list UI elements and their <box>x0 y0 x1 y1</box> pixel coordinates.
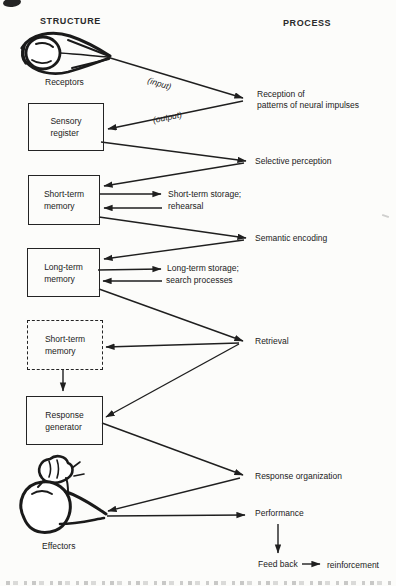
arrow-respgen-to-resporg <box>102 423 243 475</box>
arrow-sensory-to-selective <box>101 142 246 161</box>
arrow-stm-to-semantic <box>99 217 246 238</box>
response-generator-label-line1: Response <box>45 410 83 420</box>
arrow-ltm-to-retrieval <box>99 289 243 341</box>
scan-artifact-blob <box>3 0 22 8</box>
retrieval-label: Retrieval <box>255 336 289 348</box>
long-term-memory-label-line2: memory <box>44 274 75 284</box>
reinforcement-label: reinforcement <box>327 560 379 572</box>
sensory-register-box: Sensory register <box>28 103 104 151</box>
short-term-memory-dashed-label-line1: Short-term <box>45 334 85 344</box>
sensory-register-label-line2: register <box>50 128 78 138</box>
semantic-encoding-label: Semantic encoding <box>255 233 327 245</box>
long-term-memory-box: Long-term memory <box>27 248 100 297</box>
receptors-caption: Receptors <box>45 77 84 89</box>
long-term-storage-label: Long-term storage; <box>167 263 239 275</box>
selective-perception-label: Selective perception <box>255 156 332 168</box>
reception-label-line1: Reception of <box>257 89 305 101</box>
search-processes-label: search processes <box>166 275 233 287</box>
performance-label: Performance <box>255 508 304 520</box>
arrow-input <box>107 57 243 98</box>
response-generator-box: Response generator <box>26 396 103 445</box>
response-generator-label-line2: generator <box>45 422 81 432</box>
arrow-resporg-to-effectors <box>108 478 240 511</box>
reception-label-line2: patterns of neural impulses <box>257 100 359 112</box>
arrow-retrieval-to-stm2 <box>106 343 239 347</box>
receptors-eye-icon <box>22 33 110 73</box>
process-column-header: PROCESS <box>283 18 331 28</box>
arrow-semantic-to-ltm <box>104 240 244 259</box>
short-term-memory-box: Short-term memory <box>28 175 100 225</box>
structure-column-header: STRUCTURE <box>40 16 101 26</box>
long-term-memory-label-line1: Long-term <box>44 262 83 272</box>
short-term-memory-label-line1: Short-term <box>44 189 84 199</box>
short-term-memory-dashed-label-line2: memory <box>45 346 76 356</box>
arrow-ltm-to-storage <box>98 269 161 270</box>
arrow-retrieval-to-respgen <box>106 344 239 417</box>
cropped-caption-artifact <box>6 581 394 585</box>
effectors-caption: Effectors <box>42 541 75 553</box>
arrow-effectors-to-performance <box>107 515 245 516</box>
sensory-register-label-line1: Sensory <box>50 116 81 126</box>
rehearsal-label: rehearsal <box>168 201 203 213</box>
feedback-label: Feed back <box>258 559 298 571</box>
arrow-selective-to-stm <box>104 163 244 186</box>
short-term-storage-label: Short-term storage; <box>168 189 241 201</box>
effectors-arm-icon <box>21 456 106 532</box>
diagram-page: STRUCTURE PROCESS Receptors Effectors Se… <box>0 0 396 586</box>
response-organization-label: Response organization <box>255 471 342 483</box>
short-term-memory-label-line2: memory <box>44 201 75 211</box>
short-term-memory-dashed-box: Short-term memory <box>27 320 103 370</box>
